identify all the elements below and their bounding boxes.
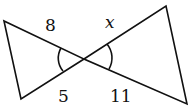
label-top-left: 8 bbox=[45, 15, 56, 35]
label-bottom-left: 5 bbox=[58, 86, 69, 106]
label-bottom-right: 11 bbox=[110, 86, 132, 106]
right-angle-arc bbox=[107, 44, 112, 69]
right-triangle bbox=[84, 6, 187, 104]
label-top-right: x bbox=[105, 12, 115, 32]
bowtie-triangles-diagram: 8 x 5 11 bbox=[0, 0, 194, 106]
left-triangle bbox=[4, 21, 84, 99]
left-angle-arc bbox=[58, 48, 63, 71]
